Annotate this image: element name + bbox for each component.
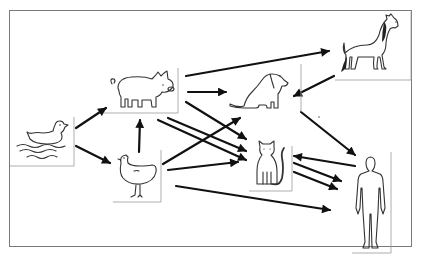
edge-chicken-dog: [163, 118, 240, 164]
pig-frame: [104, 68, 178, 113]
edge-chicken-cat: [168, 162, 238, 170]
edges: [76, 51, 355, 210]
human-icon[interactable]: human: [356, 157, 385, 248]
edge-chicken-pig: [139, 120, 140, 152]
edge-pig-human: [168, 118, 246, 151]
horse-icon[interactable]: horse: [341, 14, 398, 72]
cat-icon[interactable]: cat: [257, 141, 284, 184]
animal-graph-diagram: duck pig chicken dog horse: [0, 0, 422, 263]
dog-icon[interactable]: dog: [230, 74, 288, 108]
edge-horse-dog: [294, 76, 334, 96]
edge-dog-human: [301, 112, 355, 155]
cat-label: cat: [262, 169, 264, 171]
pig-icon[interactable]: pig: [111, 71, 174, 107]
edge-human-cat: [294, 156, 355, 166]
horse-frame: [335, 12, 411, 80]
edge-cat-human: [294, 163, 341, 181]
duck-icon[interactable]: duck: [17, 121, 68, 161]
edge-duck-pig: [76, 108, 106, 128]
chicken-icon[interactable]: chicken: [118, 155, 156, 197]
dog-label: dog: [250, 99, 252, 101]
human-label: human: [365, 209, 369, 211]
edge-duck-chicken: [76, 146, 110, 163]
horse-label: horse: [360, 59, 363, 61]
duck-label: duck: [20, 159, 23, 161]
stray-dot: [318, 116, 320, 118]
edge-pig-horse: [186, 51, 329, 76]
chicken-label: chicken: [130, 174, 134, 176]
chicken-frame: [113, 150, 161, 202]
edge-cat-human-2: [294, 172, 337, 189]
edge-chicken-human: [176, 186, 330, 210]
